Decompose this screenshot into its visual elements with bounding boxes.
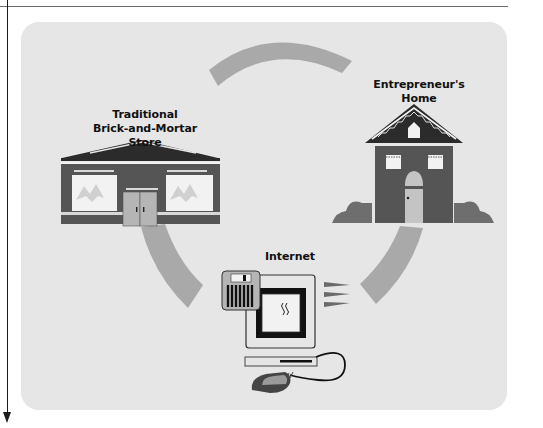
house-icon bbox=[332, 104, 494, 225]
storefront-icon bbox=[61, 140, 220, 226]
arc-left bbox=[141, 224, 203, 308]
diagram-graphics bbox=[0, 0, 543, 428]
computer-icon bbox=[222, 271, 350, 393]
home-label-line1: Entrepreneur's bbox=[364, 78, 474, 92]
store-label-line1: Traditional bbox=[75, 108, 215, 122]
internet-label: Internet bbox=[250, 250, 330, 264]
store-label: Traditional Brick-and-Mortar Store bbox=[75, 108, 215, 150]
arc-top bbox=[209, 43, 352, 86]
store-label-line2: Brick-and-Mortar Store bbox=[75, 122, 215, 150]
home-label-line2: Home bbox=[364, 92, 474, 106]
internet-label-text: Internet bbox=[250, 250, 330, 264]
home-label: Entrepreneur's Home bbox=[364, 78, 474, 106]
arc-right bbox=[360, 226, 423, 304]
